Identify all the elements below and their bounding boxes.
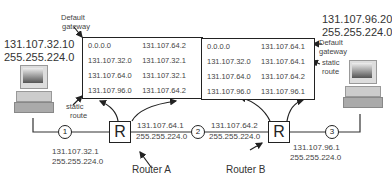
network: 131.107.64.0 bbox=[83, 71, 138, 80]
left-default-gateway-label-1: Default bbox=[61, 13, 85, 22]
segment-3-marker: 3 bbox=[325, 125, 339, 139]
right-static-route-label-2: route bbox=[322, 67, 339, 76]
network: 131.107.32.0 bbox=[83, 56, 138, 65]
left-default-gateway-label-2: gateway bbox=[62, 22, 90, 31]
table-row: 131.107.64.0 131.107.32.1 bbox=[83, 68, 202, 83]
router-b-left-ip: 131.107.64.2 bbox=[211, 121, 258, 131]
left-computer-icon bbox=[14, 65, 54, 118]
network: 131.107.32.0 bbox=[202, 57, 257, 66]
left-static-route-label-2: route bbox=[70, 111, 87, 120]
router-b-icon: R bbox=[268, 121, 290, 143]
router-a-icon: R bbox=[109, 121, 131, 143]
router-a-left-ip: 131.107.32.1 bbox=[52, 147, 99, 157]
right-default-gateway-label-2: gateway bbox=[319, 47, 347, 56]
router-a-label: Router A bbox=[132, 164, 171, 175]
gateway: 131.107.64.1 bbox=[257, 57, 314, 66]
gateway: 131.107.64.2 bbox=[257, 72, 314, 81]
left-host-mask: 255.255.224.0 bbox=[4, 51, 74, 64]
gateway: 131.107.96.1 bbox=[257, 87, 314, 96]
gateway: 131.107.32.1 bbox=[138, 71, 202, 80]
router-b-routing-table: 0.0.0.0 131.107.64.1 131.107.32.0 131.10… bbox=[201, 38, 315, 100]
table-row: 131.107.96.0 131.107.64.2 bbox=[83, 83, 202, 98]
gateway: 131.107.64.1 bbox=[257, 42, 314, 51]
right-computer-icon bbox=[343, 60, 383, 114]
right-host-ip: 131.107.96.20 bbox=[322, 13, 392, 26]
gateway: 131.107.32.1 bbox=[138, 56, 202, 65]
segment-1-marker: 1 bbox=[58, 125, 72, 139]
router-a-left-mask: 255.255.224.0 bbox=[52, 157, 103, 167]
router-b-right-mask: 255.255.224.0 bbox=[290, 153, 341, 163]
router-b-left-mask: 255.255.224.0 bbox=[209, 132, 260, 142]
router-a-right-ip: 131.107.64.1 bbox=[137, 121, 184, 131]
table-row: 131.107.32.0 131.107.32.1 bbox=[83, 53, 202, 68]
left-host-ip: 131.107.32.10 bbox=[4, 38, 74, 51]
router-a-routing-table: 0.0.0.0 131.107.64.2 131.107.32.0 131.10… bbox=[82, 37, 203, 99]
router-b-label: Router B bbox=[226, 164, 265, 175]
router-b-right-ip: 131.107.96.1 bbox=[293, 143, 340, 153]
right-default-gateway-label-1: Default bbox=[319, 38, 343, 47]
table-row: 0.0.0.0 131.107.64.2 bbox=[83, 38, 202, 53]
table-row: 131.107.96.0 131.107.96.1 bbox=[202, 84, 314, 99]
network: 131.107.64.0 bbox=[202, 72, 257, 81]
network: 131.107.96.0 bbox=[202, 87, 257, 96]
gateway: 131.107.64.2 bbox=[138, 41, 202, 50]
network: 131.107.96.0 bbox=[83, 86, 138, 95]
segment-2-marker: 2 bbox=[191, 125, 205, 139]
router-a-right-mask: 255.255.224.0 bbox=[136, 132, 187, 142]
table-row: 131.107.64.0 131.107.64.2 bbox=[202, 69, 314, 84]
gateway: 131.107.64.2 bbox=[138, 86, 202, 95]
left-static-route-label-1: static bbox=[66, 102, 84, 111]
network: 0.0.0.0 bbox=[83, 41, 138, 50]
table-row: 131.107.32.0 131.107.64.1 bbox=[202, 54, 314, 69]
right-static-route-label-1: static bbox=[322, 58, 340, 67]
table-row: 0.0.0.0 131.107.64.1 bbox=[202, 39, 314, 54]
network: 0.0.0.0 bbox=[202, 42, 257, 51]
